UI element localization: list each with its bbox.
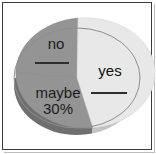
slice-label-yes: yes bbox=[89, 63, 131, 79]
pie-chart-figure: no yes maybe 30% bbox=[0, 0, 156, 154]
slice-label-no: no bbox=[36, 36, 76, 52]
pie-svg bbox=[0, 0, 156, 154]
slice-label-maybe-group: maybe 30% bbox=[30, 85, 86, 117]
leader-line-yes bbox=[91, 92, 127, 94]
pie-plot-area: no yes maybe 30% bbox=[0, 0, 156, 154]
slice-value-maybe: 30% bbox=[30, 101, 86, 117]
slice-label-maybe: maybe bbox=[35, 84, 80, 101]
leader-line-no bbox=[35, 62, 69, 64]
